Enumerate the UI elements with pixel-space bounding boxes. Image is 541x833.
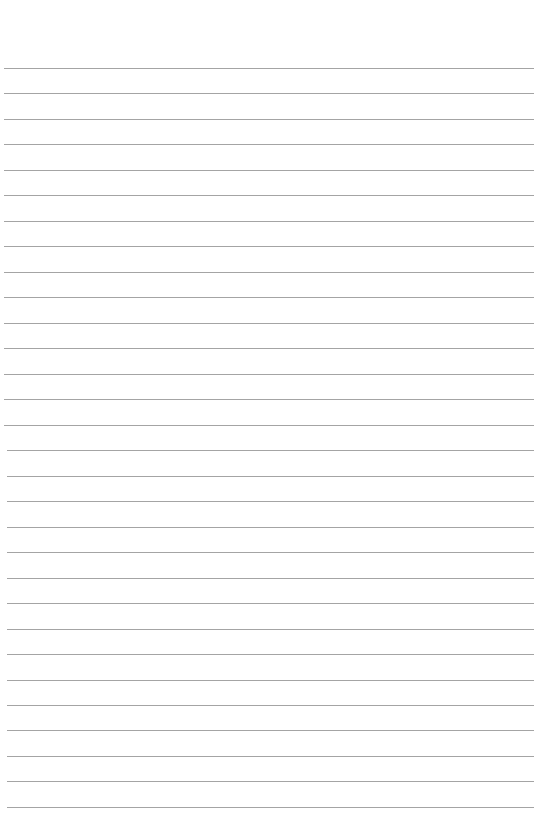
- ruled-line: [4, 374, 534, 375]
- ruled-line: [7, 527, 534, 528]
- ruled-line: [4, 272, 534, 273]
- ruled-line: [4, 246, 534, 247]
- ruled-line: [7, 552, 534, 553]
- ruled-line: [4, 119, 534, 120]
- ruled-line: [7, 680, 534, 681]
- ruled-line: [7, 450, 534, 451]
- ruled-line: [7, 501, 534, 502]
- ruled-line: [4, 170, 534, 171]
- ruled-line: [4, 399, 534, 400]
- ruled-line: [7, 730, 534, 731]
- lined-paper-page: [0, 0, 541, 833]
- ruled-line: [7, 807, 534, 808]
- ruled-line: [4, 221, 534, 222]
- ruled-line: [7, 654, 534, 655]
- ruled-line: [7, 629, 534, 630]
- ruled-line: [4, 348, 534, 349]
- ruled-line: [7, 603, 534, 604]
- ruled-line: [7, 705, 534, 706]
- ruled-line: [4, 68, 534, 69]
- ruled-line: [4, 297, 534, 298]
- ruled-line: [7, 756, 534, 757]
- ruled-line: [7, 578, 534, 579]
- ruled-line: [7, 781, 534, 782]
- ruled-line: [4, 425, 534, 426]
- ruled-line: [4, 144, 534, 145]
- ruled-line: [4, 93, 534, 94]
- ruled-line: [4, 195, 534, 196]
- ruled-line: [7, 476, 534, 477]
- ruled-line: [4, 323, 534, 324]
